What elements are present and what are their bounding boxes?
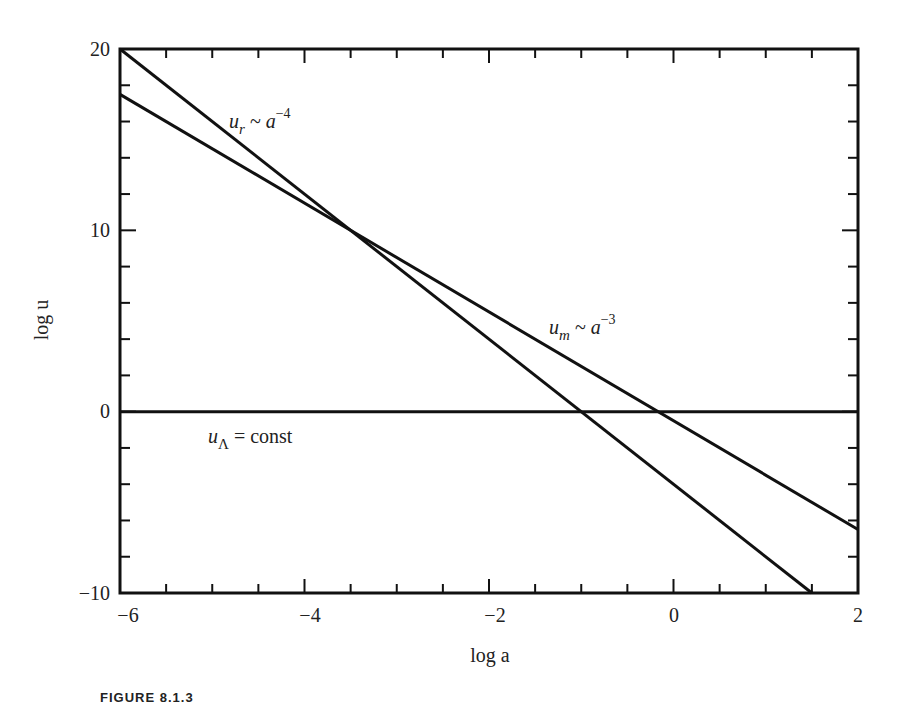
chart-canvas: 20 10 0 −10 −6 −4 −2 0 2 log a log u ur … bbox=[0, 0, 899, 702]
x-tick-label: −2 bbox=[484, 604, 505, 626]
y-axis-title: log u bbox=[30, 300, 53, 341]
tilde-a: ~ a bbox=[245, 110, 276, 132]
y-tick-label: 20 bbox=[90, 38, 110, 60]
y-tick-label: 0 bbox=[100, 400, 110, 422]
x-tick-label: 0 bbox=[669, 604, 679, 626]
annotation-matter: um ~ a−3 bbox=[549, 312, 616, 343]
x-tick-label: −4 bbox=[299, 604, 320, 626]
series-line bbox=[120, 49, 812, 593]
figure-caption: FIGURE 8.1.3 bbox=[100, 690, 800, 702]
series-line bbox=[120, 94, 858, 529]
annotation-radiation: ur ~ a−4 bbox=[229, 106, 291, 137]
annotation-lambda: uΛ = const bbox=[208, 425, 293, 452]
y-tick-label: 10 bbox=[90, 219, 110, 241]
x-tick-label: −6 bbox=[117, 604, 138, 626]
x-axis-title: log a bbox=[470, 644, 510, 667]
y-tick-label: −10 bbox=[79, 582, 110, 604]
x-tick-label: 2 bbox=[853, 604, 863, 626]
